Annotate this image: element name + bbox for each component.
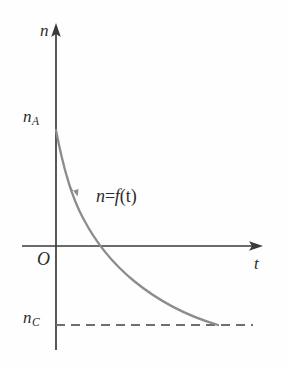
decay-curve: [56, 130, 218, 325]
asymptote-value-subscript: C: [32, 316, 40, 329]
start-value-base: n: [23, 107, 32, 126]
asymptote-value-base: n: [23, 308, 32, 327]
origin-label: O: [37, 250, 50, 268]
asymptote-value-label: nC: [23, 309, 40, 329]
x-axis-label: t: [254, 255, 259, 272]
y-axis-label: n: [40, 22, 49, 39]
equation-equals: =: [105, 186, 115, 206]
equation-argument: (t): [120, 186, 137, 206]
start-value-label: nA: [23, 108, 39, 128]
equation-lhs: n: [96, 186, 105, 206]
plot-svg: [0, 0, 288, 368]
figure-canvas: n t O nA nC n=f(t): [0, 0, 288, 368]
start-value-subscript: A: [32, 115, 39, 128]
curve-equation-label: n=f(t): [96, 187, 137, 205]
